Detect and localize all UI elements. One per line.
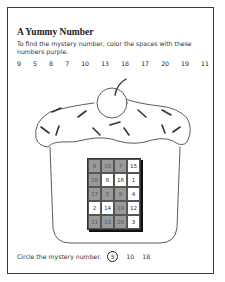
grid-cell[interactable]: 5 — [101, 187, 114, 201]
answer-option[interactable]: 10 — [126, 253, 134, 260]
grid-cell[interactable]: 15 — [127, 159, 140, 173]
grid-cell[interactable]: 8 — [88, 159, 101, 173]
grid-cell[interactable]: 7 — [114, 159, 127, 173]
grid-cell[interactable]: 13 — [101, 215, 114, 229]
grid-cell[interactable]: 6 — [101, 173, 114, 187]
grid-cell[interactable]: 20 — [114, 215, 127, 229]
grid-cell[interactable]: 9 — [114, 187, 127, 201]
grid-cell[interactable]: 14 — [101, 201, 114, 215]
grid-cell[interactable]: 3 — [127, 215, 140, 229]
grid-cell[interactable]: 2 — [88, 201, 101, 215]
cherry — [97, 88, 127, 118]
cupcake-illustration — [0, 0, 225, 282]
grid-cell[interactable]: 10 — [101, 159, 114, 173]
grid-cell[interactable]: 1 — [127, 173, 140, 187]
answer-prompt: Circle the mystery number. — [17, 253, 101, 260]
grid-cell[interactable]: 12 — [127, 201, 140, 215]
answer-option[interactable]: 18 — [142, 253, 150, 260]
grid-cell[interactable]: 4 — [127, 187, 140, 201]
grid-cell[interactable]: 16 — [114, 173, 127, 187]
grid-cell[interactable]: 19 — [114, 201, 127, 215]
grid-cell[interactable]: 11 — [88, 215, 101, 229]
grid-cell[interactable]: 18 — [88, 173, 101, 187]
answer-option-circled[interactable]: 5 — [107, 251, 118, 262]
grid-cell[interactable]: 17 — [88, 187, 101, 201]
number-grid: 8107151861611759421419121113203 — [87, 158, 141, 230]
answer-row: Circle the mystery number. 5 10 18 — [17, 251, 150, 262]
